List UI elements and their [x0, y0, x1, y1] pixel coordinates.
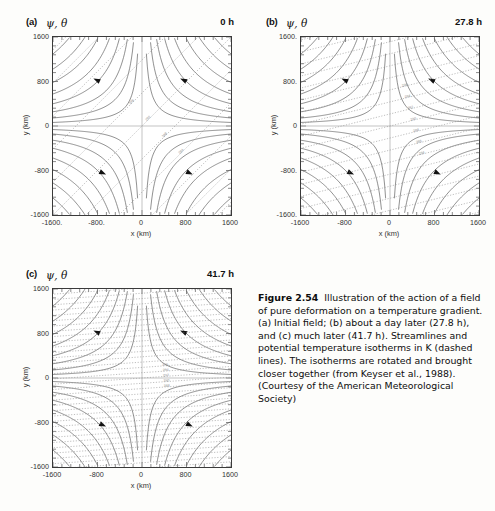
- panel-b-tag: (b): [266, 16, 278, 27]
- panel-c-plot-area: 288290292294296: [52, 288, 232, 468]
- box-c-ytick-1: 800: [21, 328, 49, 337]
- box-b-xtick-0: -1600: [291, 218, 309, 227]
- box-a-ytick-0: 1600: [21, 32, 49, 41]
- svg-text:294: 294: [404, 94, 411, 99]
- panel-a-header: (a) ψ, θ 0 h: [18, 16, 236, 34]
- box-a-xtick-4: 1600: [222, 218, 238, 227]
- figure-2-54: (a) ψ, θ 0 h 284288292296 -1600.-800.080…: [0, 0, 495, 511]
- box-a-ytick-1: 800: [21, 76, 49, 85]
- box-a-xtick-1: -800.: [88, 218, 104, 227]
- svg-text:288: 288: [164, 384, 170, 388]
- panel-a-symbols: ψ, θ: [46, 17, 67, 29]
- box-b-flow-arrows: [341, 79, 440, 175]
- svg-text:290: 290: [410, 117, 417, 122]
- box-a-xaxis-label: x (km): [131, 229, 152, 238]
- box-b-ytick-3: -800.: [269, 165, 297, 174]
- box-b-xtick-4: 1600: [470, 218, 486, 227]
- box-c-xtick-3: 800: [180, 470, 192, 479]
- box-c-canvas: 288290292294296: [53, 289, 231, 467]
- box-a-yaxis-label: y (km): [21, 115, 30, 136]
- panel-c-tag: (c): [26, 268, 37, 279]
- box-c-ytick-4: -1600: [21, 462, 49, 471]
- box-a-canvas: 284288292296: [53, 37, 231, 215]
- box-b-xtick-1: -800: [337, 218, 351, 227]
- box-b-ytick-0: 1600.: [269, 32, 297, 41]
- box-c-ytick-3: -800: [21, 417, 49, 426]
- svg-text:292: 292: [407, 105, 414, 110]
- box-a-ytick-4: -1600: [21, 210, 49, 219]
- box-a-xtick-2: 0: [139, 218, 143, 227]
- svg-text:296: 296: [162, 363, 168, 367]
- box-c-xtick-4: 1600: [222, 470, 238, 479]
- box-b-isotherm-labels: 284286288290292294296: [401, 83, 425, 156]
- figure-caption: Figure 2.54 Illustration of the action o…: [258, 292, 486, 405]
- svg-text:284: 284: [418, 151, 425, 156]
- box-b-yaxis-label: y (km): [269, 115, 278, 136]
- panel-b-plot-area: 284286288290292294296: [300, 36, 480, 216]
- panel-c-header: (c) ψ, θ 41.7 h: [18, 268, 236, 286]
- panel-c: (c) ψ, θ 41.7 h 288290292294296 -1600-80…: [18, 268, 236, 508]
- panel-b-time: 27.8 h: [455, 16, 482, 27]
- svg-text:284: 284: [178, 148, 185, 155]
- figure-number: Figure 2.54: [258, 292, 318, 303]
- box-c-xtick-1: -800: [89, 470, 103, 479]
- box-b-xaxis-label: x (km): [379, 229, 400, 238]
- svg-text:294: 294: [163, 368, 169, 372]
- box-b-ytick-1: 800.: [269, 76, 297, 85]
- panel-a-tag: (a): [26, 16, 37, 27]
- box-b-xtick-2: 0: [387, 218, 391, 227]
- panel-a-plot-area: 284288292296: [52, 36, 232, 216]
- svg-text:288: 288: [161, 131, 168, 138]
- box-a-ytick-3: -800: [21, 165, 49, 174]
- panel-c-time: 41.7 h: [207, 268, 234, 279]
- box-c-xaxis-label: x (km): [131, 481, 152, 490]
- box-a-xtick-0: -1600.: [42, 218, 62, 227]
- box-a-xtick-3: 800: [180, 218, 192, 227]
- box-c-xtick-0: -1600: [43, 470, 61, 479]
- box-c-ytick-0: 1600: [21, 284, 49, 293]
- svg-text:296: 296: [128, 98, 135, 105]
- figure-caption-text: Illustration of the action of a field of…: [258, 292, 482, 404]
- box-b-ytick-4: -1600.: [269, 210, 297, 219]
- panel-b: (b) ψ, θ 27.8 h 284286288290292294296 -1…: [258, 16, 484, 256]
- box-b-xtick-3: 800: [428, 218, 440, 227]
- panel-b-symbols: ψ, θ: [286, 17, 307, 29]
- svg-text:290: 290: [163, 378, 169, 382]
- panel-a-time: 0 h: [220, 16, 234, 27]
- box-c-xtick-2: 0: [139, 470, 143, 479]
- panel-a: (a) ψ, θ 0 h 284288292296 -1600.-800.080…: [18, 16, 236, 256]
- box-b-canvas: 284286288290292294296: [301, 37, 479, 215]
- svg-text:292: 292: [163, 373, 169, 377]
- box-a-flow-arrows: [93, 79, 192, 175]
- panel-c-symbols: ψ, θ: [46, 269, 67, 281]
- svg-text:296: 296: [401, 83, 408, 88]
- svg-text:286: 286: [415, 139, 422, 144]
- svg-text:288: 288: [413, 128, 420, 133]
- box-c-yaxis-label: y (km): [21, 367, 30, 388]
- svg-text:292: 292: [145, 115, 152, 122]
